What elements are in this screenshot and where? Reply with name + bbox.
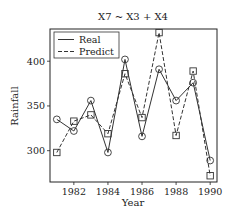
y-tick-label: 300: [27, 145, 45, 156]
chart-title: X7 ~ X3 + X4: [98, 11, 168, 22]
x-axis: 19821984198619881990: [62, 182, 223, 197]
y-tick-label: 400: [27, 56, 45, 67]
y-axis-label: Rainfall: [9, 86, 20, 125]
square-marker-icon: [71, 118, 77, 124]
x-axis-label: Year: [121, 197, 145, 208]
legend: Real Predict: [54, 32, 119, 58]
legend-predict-label: Predict: [79, 46, 114, 57]
x-tick-label: 1988: [164, 186, 188, 197]
legend-real-label: Real: [79, 34, 100, 45]
y-axis: 300350400: [27, 56, 50, 156]
x-tick-label: 1982: [62, 186, 86, 197]
x-tick-label: 1984: [96, 186, 120, 197]
chart: X7 ~ X3 + X4 300350400 19821984198619881…: [0, 0, 230, 221]
x-tick-label: 1986: [130, 186, 154, 197]
circle-marker-icon: [53, 116, 60, 123]
series-real-line: [57, 59, 210, 160]
x-tick-label: 1990: [198, 186, 222, 197]
y-tick-label: 350: [27, 100, 45, 111]
